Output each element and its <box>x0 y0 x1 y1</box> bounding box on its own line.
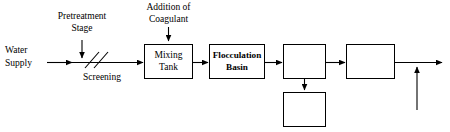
box-mixing-tank-label-line2: Tank <box>159 62 178 72</box>
label-water-supply-line2: Supply <box>5 58 32 68</box>
box-unit-4 <box>284 93 326 127</box>
water-treatment-flow-diagram: Mixing Tank Flocculation Basin Water S <box>0 0 450 132</box>
screening-slash-2 <box>94 52 108 68</box>
box-mixing-tank-label-line1: Mixing <box>155 50 183 60</box>
label-water-supply-line1: Water <box>5 45 28 55</box>
label-pretreatment-line2: Stage <box>71 23 92 33</box>
label-coagulant-line2: Coagulant <box>149 14 188 24</box>
label-screening: Screening <box>83 72 121 82</box>
box-unit-5 <box>347 45 395 79</box>
label-pretreatment-line1: Pretreatment <box>58 11 107 21</box>
screening-slash-1 <box>85 52 99 68</box>
box-flocculation-basin-label-line1: Flocculation <box>213 50 262 60</box>
box-flocculation-basin-label-line2: Basin <box>226 62 248 72</box>
label-coagulant-line1: Addition of <box>146 2 191 12</box>
box-unit-3 <box>284 45 326 79</box>
flowchart-canvas: Mixing Tank Flocculation Basin Water S <box>0 0 450 132</box>
